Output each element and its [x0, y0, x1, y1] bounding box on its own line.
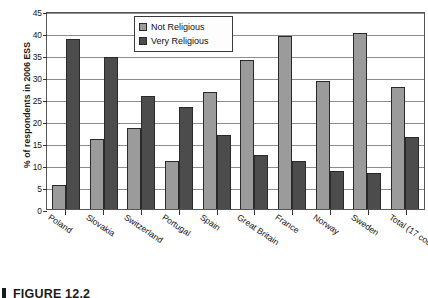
square-swatch-icon: [139, 23, 147, 31]
legend-label: Very Religious: [151, 36, 209, 46]
x-axis-labels: PolandSlovakiaSwitzerlandPortugalSpainGr…: [46, 212, 425, 282]
bar: [104, 57, 118, 209]
bar: [367, 173, 381, 209]
bar: [330, 171, 344, 209]
bar: [141, 96, 155, 209]
figure-container: % of respondents in 2006 ESS 05101520253…: [0, 0, 428, 298]
bar-group: [47, 13, 85, 209]
x-axis-tick-label: Total (17 countries): [387, 212, 428, 261]
x-axis-tick-label: Sweden: [350, 212, 381, 238]
bar: [127, 128, 141, 209]
bar: [240, 60, 254, 209]
bar-group: [273, 13, 311, 209]
bar: [52, 185, 66, 209]
legend-label: Not Religious: [151, 22, 205, 32]
legend-item-not-religious: Not Religious: [139, 20, 228, 34]
bar-group: [85, 13, 123, 209]
bar: [316, 81, 330, 209]
bar: [405, 137, 419, 209]
x-axis-tick-label: Switzerland: [122, 212, 164, 245]
x-axis-tick-label: Poland: [46, 212, 74, 235]
bar-group: [311, 13, 349, 209]
caption-rule-icon: [2, 288, 6, 298]
bar: [203, 92, 217, 209]
chart-legend: Not Religious Very Religious: [134, 16, 233, 52]
bar-group: [349, 13, 387, 209]
x-axis-tick-label: Slovakia: [84, 212, 117, 238]
x-axis-tick-label: France: [274, 212, 302, 235]
plot-area: 051015202530354045: [46, 12, 425, 210]
bar: [90, 139, 104, 209]
x-axis-tick-label: Norway: [312, 212, 342, 237]
bar-series-container: [47, 13, 424, 209]
bar: [292, 161, 306, 209]
bar: [66, 39, 80, 209]
bar: [165, 161, 179, 209]
bar: [353, 33, 367, 209]
bar-group: [386, 13, 424, 209]
bar: [391, 87, 405, 209]
bar: [217, 135, 231, 209]
figure-caption-label: FIGURE 12.2: [13, 287, 90, 298]
x-axis-tick-label: Portugal: [160, 212, 192, 238]
figure-caption: FIGURE 12.2: [0, 280, 428, 298]
legend-item-very-religious: Very Religious: [139, 34, 228, 48]
bar: [278, 36, 292, 209]
x-axis-tick-label: Spain: [198, 212, 222, 233]
bar: [254, 155, 268, 209]
bar-group: [236, 13, 274, 209]
bar: [179, 107, 193, 209]
square-swatch-icon: [139, 37, 147, 45]
